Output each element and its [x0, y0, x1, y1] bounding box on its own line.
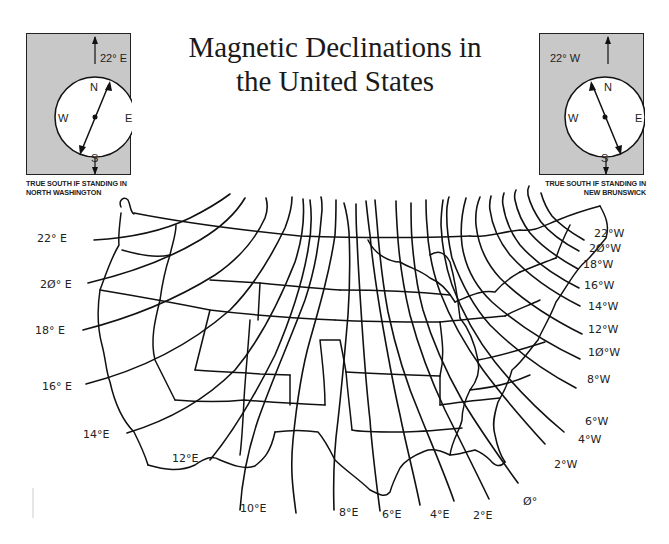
label-12E: 12°E — [172, 452, 198, 465]
label-6E: 6°E — [382, 508, 401, 521]
label-4W: 4°W — [578, 433, 601, 446]
label-2E: 2°E — [473, 509, 492, 522]
label-18W: 18°W — [583, 258, 613, 271]
label-8E: 8°E — [339, 506, 358, 519]
label-22W: 22°W — [594, 227, 624, 240]
label-10E: 10°E — [240, 502, 266, 515]
label-14W: 14°W — [588, 300, 618, 313]
us-outline — [98, 198, 607, 495]
label-6W: 6°W — [585, 415, 608, 428]
label-14E: 14°E — [83, 428, 109, 441]
label-16E: 16° E — [42, 380, 72, 393]
label-20E: 2Ø° E — [40, 278, 72, 291]
label-8W: 8°W — [587, 373, 610, 386]
label-2W: 2°W — [554, 458, 577, 471]
label-22E: 22° E — [37, 232, 67, 245]
label-10W: 1Ø°W — [588, 346, 620, 359]
us-declination-map: 22° E 2Ø° E 18° E 16° E 14°E 12°E 10°E 8… — [0, 0, 669, 544]
label-0: Ø° — [523, 495, 537, 508]
label-12W: 12°W — [588, 323, 618, 336]
label-20W: 2Ø°W — [589, 242, 621, 255]
label-4E: 4°E — [430, 508, 449, 521]
label-16W: 16°W — [584, 279, 614, 292]
label-18E: 18° E — [35, 324, 65, 337]
